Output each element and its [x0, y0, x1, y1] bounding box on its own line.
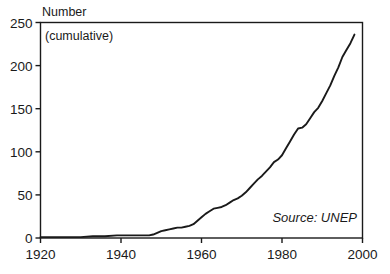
y-axis-subtitle: (cumulative) [45, 29, 113, 43]
x-axis-ticks [41, 238, 363, 243]
line-chart-svg: 050100150200250 19201940196019802000 Num… [0, 0, 390, 274]
y-axis-tick-labels: 050100150200250 [10, 16, 33, 247]
x-tick-label: 1940 [106, 247, 136, 262]
x-tick-label: 1920 [25, 247, 55, 262]
x-tick-label: 2000 [347, 247, 377, 262]
y-tick-label: 50 [17, 188, 32, 203]
y-tick-label: 0 [25, 231, 33, 246]
x-axis-tick-labels: 19201940196019802000 [25, 247, 377, 262]
y-tick-label: 250 [10, 16, 33, 31]
y-axis-title: Number [42, 5, 86, 19]
x-tick-label: 1980 [267, 247, 297, 262]
y-tick-label: 200 [10, 59, 33, 74]
y-tick-label: 100 [10, 145, 33, 160]
source-note: Source: UNEP [272, 210, 357, 225]
data-series-line [41, 35, 355, 238]
x-tick-label: 1960 [186, 247, 216, 262]
y-axis-ticks [36, 23, 41, 239]
y-tick-label: 150 [10, 102, 33, 117]
plot-frame [41, 23, 363, 239]
chart-figure: 050100150200250 19201940196019802000 Num… [0, 0, 390, 274]
